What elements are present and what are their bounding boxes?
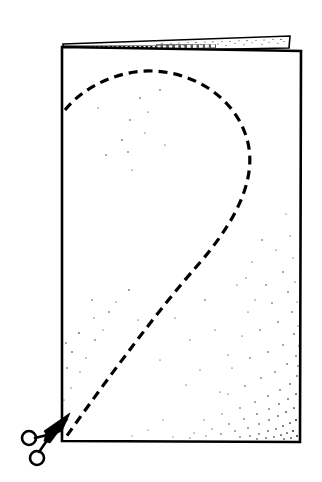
folded-paper-diagram [0, 0, 322, 482]
illustration-root [0, 0, 322, 482]
front-panel-group [62, 47, 301, 442]
front-panel-shape [62, 47, 301, 442]
